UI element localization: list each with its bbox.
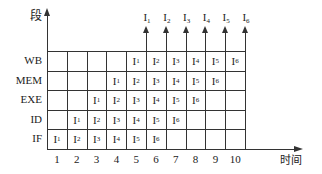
pipeline-cell: I3 [106, 110, 126, 130]
pipeline-cell: I2 [87, 110, 107, 130]
arrow-head-icon [222, 26, 228, 33]
y-axis-arrow-icon [44, 8, 50, 16]
time-tick: 10 [225, 153, 245, 165]
pipeline-cell: I6 [166, 110, 186, 130]
stage-label-exe: EXE [2, 93, 42, 105]
pipeline-cell: I6 [146, 129, 166, 149]
y-axis-label: 段 [30, 6, 42, 24]
pipeline-cell: I3 [166, 51, 186, 71]
completed-instruction-label: I5 [216, 11, 236, 25]
pipeline-cell: I5 [205, 51, 225, 71]
time-tick: 2 [67, 153, 87, 165]
time-tick: 3 [87, 153, 107, 165]
pipeline-cell: I5 [186, 71, 206, 91]
pipeline-cell: I4 [166, 71, 186, 91]
pipeline-cell: I6 [205, 71, 225, 91]
pipeline-cell: I5 [126, 129, 146, 149]
stage-label-wb: WB [2, 54, 42, 66]
pipeline-cell: I4 [186, 51, 206, 71]
arrow-head-icon [183, 26, 189, 33]
completed-instruction-label: I3 [177, 11, 197, 25]
x-axis-label: 时间 [280, 151, 302, 167]
pipeline-cell: I4 [146, 90, 166, 110]
completed-instruction-label: I4 [196, 11, 216, 25]
pipeline-cell: I2 [146, 51, 166, 71]
pipeline-cell: I1 [67, 110, 87, 130]
pipeline-cell: I2 [106, 90, 126, 110]
time-tick: 9 [205, 153, 225, 165]
stage-label-id: ID [2, 113, 42, 125]
pipeline-cell: I5 [146, 110, 166, 130]
pipeline-cell: I1 [47, 129, 67, 149]
pipeline-cell: I4 [126, 110, 146, 130]
pipeline-cell: I6 [186, 90, 206, 110]
time-tick: 6 [146, 153, 166, 165]
pipeline-cell: I2 [126, 71, 146, 91]
arrow-head-icon [143, 26, 149, 33]
pipeline-cell: I2 [67, 129, 87, 149]
time-tick: 4 [106, 153, 126, 165]
time-tick: 8 [186, 153, 206, 165]
pipeline-cell: I6 [225, 51, 245, 71]
completed-instruction-label: I2 [157, 11, 177, 25]
pipeline-cell: I1 [87, 90, 107, 110]
stage-label-if: IF [2, 132, 42, 144]
pipeline-cell: I3 [146, 71, 166, 91]
pipeline-cell: I1 [106, 71, 126, 91]
completed-instruction-label: I6 [236, 11, 256, 25]
completed-instruction-label: I1 [137, 11, 157, 25]
pipeline-cell: I3 [87, 129, 107, 149]
pipeline-cell: I4 [106, 129, 126, 149]
pipeline-cell: I5 [166, 90, 186, 110]
pipeline-cell: I3 [126, 90, 146, 110]
arrow-head-icon [202, 26, 208, 33]
time-tick: 5 [126, 153, 146, 165]
pipeline-cell: I1 [126, 51, 146, 71]
time-tick: 7 [166, 153, 186, 165]
stage-label-mem: MEM [2, 74, 42, 86]
arrow-head-icon [242, 26, 248, 33]
time-tick: 1 [47, 153, 67, 165]
arrow-head-icon [163, 26, 169, 33]
